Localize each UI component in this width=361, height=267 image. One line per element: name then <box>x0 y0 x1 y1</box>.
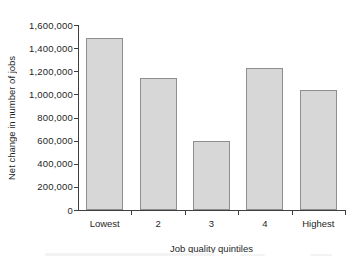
bar-2 <box>140 78 177 210</box>
x-tick-label-4: 4 <box>238 218 291 229</box>
cropped-page-artifact <box>45 253 215 256</box>
bar-4 <box>246 68 283 210</box>
y-tick <box>74 187 78 188</box>
x-tick <box>238 211 239 215</box>
x-tick <box>292 211 293 215</box>
y-tick <box>74 118 78 119</box>
x-tick-label-lowest: Lowest <box>78 218 131 229</box>
y-tick-label: 1,400,000 <box>0 43 73 54</box>
y-tick-label: 0 <box>0 205 73 216</box>
y-tick <box>74 71 78 72</box>
y-tick <box>74 164 78 165</box>
x-tick <box>131 211 132 215</box>
cropped-page-artifact <box>310 254 332 256</box>
y-tick <box>74 48 78 49</box>
x-tick-label-3: 3 <box>185 218 238 229</box>
y-tick <box>74 25 78 26</box>
y-axis-line <box>78 25 79 211</box>
y-tick-label: 1,600,000 <box>0 20 73 31</box>
y-tick <box>74 210 78 211</box>
bar-3 <box>193 141 230 210</box>
x-tick <box>185 211 186 215</box>
cropped-page-artifact <box>240 254 265 256</box>
y-tick-label: 1,000,000 <box>0 89 73 100</box>
bar-highest <box>300 90 337 210</box>
y-tick-label: 800,000 <box>0 112 73 123</box>
y-tick-label: 200,000 <box>0 181 73 192</box>
x-tick-label-highest: Highest <box>292 218 345 229</box>
y-tick-label: 400,000 <box>0 158 73 169</box>
x-tick-label-2: 2 <box>131 218 184 229</box>
y-tick-label: 1,200,000 <box>0 66 73 77</box>
x-tick <box>345 211 346 215</box>
y-tick <box>74 141 78 142</box>
y-tick <box>74 94 78 95</box>
job-quality-bar-chart: Net change in number of jobs 0200,000400… <box>0 0 361 267</box>
x-axis-line <box>78 210 346 211</box>
bar-lowest <box>86 38 123 210</box>
y-tick-label: 600,000 <box>0 135 73 146</box>
